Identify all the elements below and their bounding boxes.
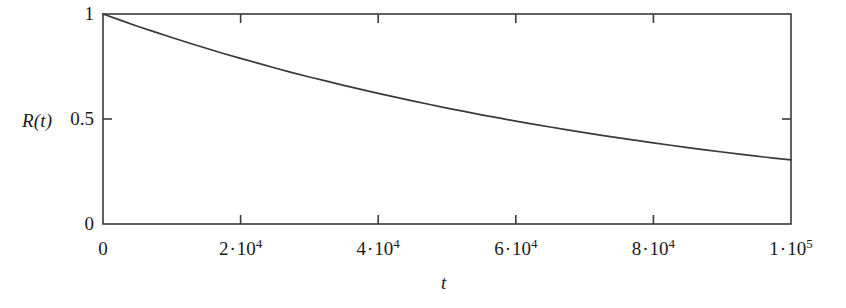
tick-exponent: 5	[806, 236, 813, 251]
x-tick-label: 0	[58, 238, 148, 260]
tick-base: 10	[374, 238, 393, 259]
tick-mantissa: 0	[98, 238, 108, 259]
tick-exponent: 4	[256, 236, 263, 251]
tick-exponent: 4	[393, 236, 400, 251]
multiplication-dot: ·	[228, 238, 236, 259]
chart-figure: R(t) t 1 0.5 0 02·1044·1046·1048·1041·10…	[0, 0, 846, 308]
tick-mantissa: 6	[494, 238, 504, 259]
x-tick-label: 1·105	[746, 238, 836, 260]
plot-frame	[103, 14, 791, 224]
tick-base: 10	[650, 238, 669, 259]
tick-mantissa: 8	[632, 238, 642, 259]
tick-mantissa: 2	[219, 238, 229, 259]
x-axis-title: t	[441, 272, 446, 294]
tick-marks	[103, 14, 791, 224]
tick-exponent: 4	[531, 236, 538, 251]
multiplication-dot: ·	[504, 238, 512, 259]
y-tick-label: 0	[60, 213, 94, 235]
tick-base: 10	[787, 238, 806, 259]
x-tick-label: 8·104	[608, 238, 698, 260]
x-tick-label: 6·104	[471, 238, 561, 260]
y-axis-title: R(t)	[22, 110, 52, 132]
x-tick-label: 4·104	[333, 238, 423, 260]
y-tick-label: 0.5	[60, 108, 94, 130]
data-series-line	[103, 14, 791, 160]
plot-area	[0, 0, 846, 308]
multiplication-dot: ·	[779, 238, 787, 259]
multiplication-dot: ·	[641, 238, 649, 259]
tick-base: 10	[237, 238, 256, 259]
tick-base: 10	[512, 238, 531, 259]
x-tick-label: 2·104	[196, 238, 286, 260]
y-tick-label: 1	[60, 3, 94, 25]
tick-mantissa: 1	[769, 238, 779, 259]
tick-mantissa: 4	[357, 238, 367, 259]
tick-exponent: 4	[669, 236, 676, 251]
